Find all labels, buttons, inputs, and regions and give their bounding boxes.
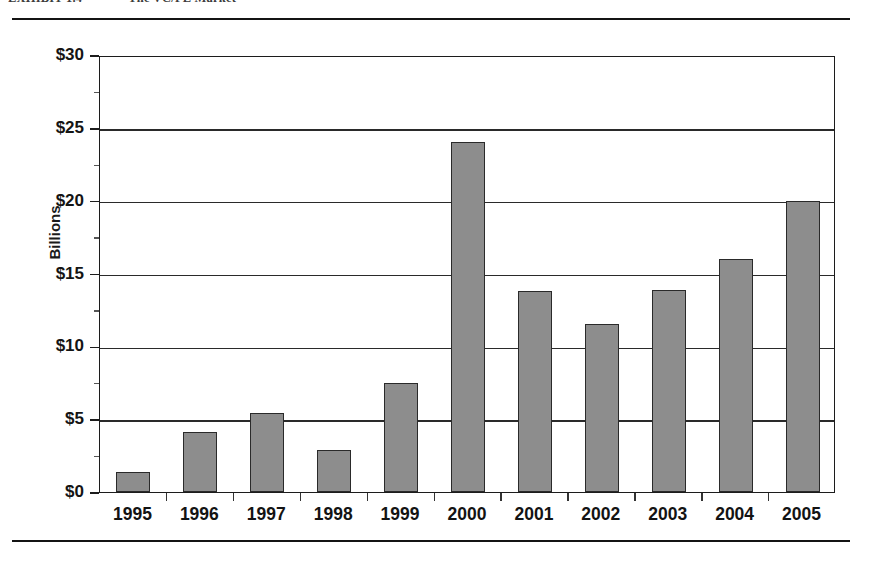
y-axis-tick-mark: [90, 274, 99, 276]
bar: [451, 142, 485, 492]
y-axis-tick-label: $15: [20, 264, 84, 284]
y-axis-tick-mark: [90, 419, 99, 421]
x-axis-tick-label: 2002: [567, 504, 634, 525]
bar: [719, 259, 753, 492]
x-axis-tick-mark: [567, 493, 568, 501]
x-axis-tick-label: 1996: [166, 504, 233, 525]
bar: [585, 324, 619, 492]
y-axis-tick-label: $20: [20, 191, 84, 211]
bar: [384, 383, 418, 492]
plot-area: [99, 56, 835, 493]
x-axis-tick-mark: [367, 493, 368, 501]
gridline: [100, 129, 834, 130]
x-axis-tick-label: 2005: [768, 504, 835, 525]
y-axis-tick-label: $0: [20, 482, 84, 502]
x-axis-tick-label: 1998: [300, 504, 367, 525]
x-axis-tick-label: 2001: [500, 504, 567, 525]
divider-bottom: [12, 540, 850, 542]
divider-top: [12, 18, 850, 20]
x-axis-tick-label: 2004: [701, 504, 768, 525]
y-axis-tick-label: $5: [20, 409, 84, 429]
bar: [116, 472, 150, 492]
x-axis-tick-mark: [434, 493, 435, 501]
x-axis-tick-mark: [500, 493, 501, 501]
x-axis-tick-label: 2003: [634, 504, 701, 525]
x-axis-tick-label: 2000: [434, 504, 501, 525]
y-axis-tick-mark: [90, 201, 99, 203]
x-axis-tick-mark: [166, 493, 167, 501]
exhibit-caption: EXHIBIT 1.4The VC/PE Market: [8, 0, 608, 7]
y-axis-tick-mark: [90, 55, 99, 57]
x-axis-tick-mark: [768, 493, 769, 501]
y-axis-tick-mark: [90, 128, 99, 130]
x-axis-tick-label: 1999: [367, 504, 434, 525]
x-axis-tick-mark: [701, 493, 702, 501]
bar: [652, 290, 686, 492]
y-axis-tick-label: $10: [20, 336, 84, 356]
exhibit-title: The VC/PE Market: [128, 0, 236, 5]
bar: [317, 450, 351, 492]
x-axis-tick-mark: [300, 493, 301, 501]
y-axis-tick-label: $25: [20, 118, 84, 138]
x-axis-tick-mark: [233, 493, 234, 501]
y-axis-tick-mark: [90, 347, 99, 349]
bar-chart-figure: Billions $0$5$10$15$20$25$30 19951996199…: [0, 24, 871, 529]
bar: [250, 413, 284, 492]
exhibit-label: EXHIBIT 1.4: [8, 0, 82, 5]
x-axis-tick-mark: [634, 493, 635, 501]
y-axis-tick-label: $30: [20, 45, 84, 65]
y-axis-tick-mark: [90, 492, 99, 494]
x-axis-tick-label: 1995: [99, 504, 166, 525]
bar: [786, 201, 820, 492]
x-axis-tick-label: 1997: [233, 504, 300, 525]
bar: [518, 291, 552, 492]
bar: [183, 432, 217, 492]
